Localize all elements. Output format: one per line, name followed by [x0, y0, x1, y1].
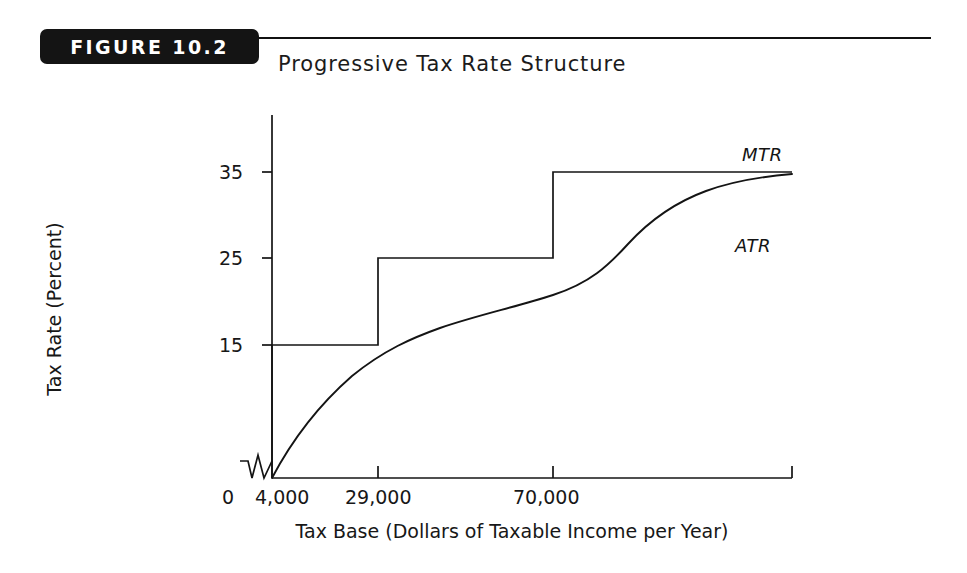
series-label-mtr: MTR	[742, 144, 783, 165]
x-tick-label-4000: 4,000	[255, 486, 309, 508]
x-tick-label-70000: 70,000	[513, 486, 579, 508]
chart-plot-area: 35 25 15 0 4,000 29,000 70,000 MTR ATR T…	[0, 88, 967, 573]
y-tick-label-25: 25	[219, 247, 243, 269]
chart-svg	[0, 88, 967, 573]
figure-number-label: FIGURE 10.2	[70, 36, 229, 58]
figure-number-tag: FIGURE 10.2	[40, 29, 259, 64]
series-mtr-step-line	[272, 172, 792, 478]
y-axis-title: Tax Rate (Percent)	[43, 189, 65, 429]
axis-break-zigzag	[240, 455, 272, 478]
figure-title: Progressive Tax Rate Structure	[278, 52, 626, 76]
x-tick-label-29000: 29,000	[345, 486, 411, 508]
header-rule	[150, 37, 931, 39]
x-axis-title: Tax Base (Dollars of Taxable Income per …	[232, 520, 792, 542]
x-tick-label-0: 0	[222, 486, 234, 508]
series-label-atr: ATR	[735, 235, 771, 256]
figure-header: FIGURE 10.2 Progressive Tax Rate Structu…	[0, 0, 967, 90]
series-atr-curve	[272, 174, 792, 478]
y-tick-label-15: 15	[219, 334, 243, 356]
y-tick-label-35: 35	[219, 161, 243, 183]
